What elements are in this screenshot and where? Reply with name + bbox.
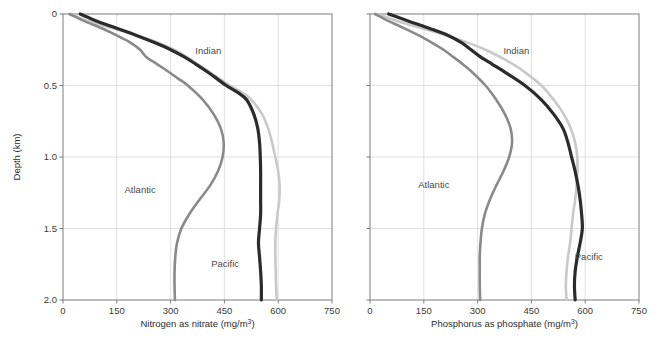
series-label-atlantic: Atlantic (125, 184, 156, 195)
series-label-indian: Indian (195, 45, 221, 56)
xaxis-title-main: Nitrogen as nitrate (mg/m (140, 318, 247, 329)
xtick-label: 150 (109, 305, 125, 316)
yaxis-title: Depth (km) (11, 134, 22, 181)
xtick-label: 300 (470, 305, 486, 316)
xtick-label: 600 (577, 305, 593, 316)
xtick-label: 300 (163, 305, 179, 316)
xtick-label: 600 (270, 305, 286, 316)
xaxis-title: Phosphorus as phosphate (mg/m3) (431, 318, 578, 329)
series-label-atlantic: Atlantic (418, 179, 449, 190)
chart-canvas: 015030045060075000.51.01.52.0Nitrogen as… (0, 0, 666, 348)
series-label-pacific: Pacific (211, 258, 239, 269)
ytick-label: 1.5 (44, 223, 57, 234)
ytick-label: 0 (52, 8, 57, 19)
xtick-label: 750 (324, 305, 340, 316)
xtick-label: 750 (631, 305, 647, 316)
xtick-label: 0 (367, 305, 372, 316)
xtick-label: 450 (523, 305, 539, 316)
xtick-label: 0 (60, 305, 65, 316)
ytick-label: 0.5 (44, 80, 57, 91)
xaxis-title-tail: ) (575, 318, 578, 329)
xaxis-title-tail: ) (251, 318, 254, 329)
ocean-nutrient-profile-figure: 015030045060075000.51.01.52.0Nitrogen as… (0, 0, 666, 348)
ytick-label: 1.0 (44, 151, 57, 162)
panel-phosphate: 0150300450600750Phosphorus as phosphate … (367, 14, 647, 329)
series-label-pacific: Pacific (575, 251, 603, 262)
xaxis-title: Nitrogen as nitrate (mg/m3) (140, 318, 254, 329)
panel-nitrate: 015030045060075000.51.01.52.0Nitrogen as… (11, 8, 340, 329)
ytick-label: 2.0 (44, 294, 57, 305)
series-label-indian: Indian (503, 45, 529, 56)
xtick-label: 150 (416, 305, 432, 316)
xaxis-title-main: Phosphorus as phosphate (mg/m (431, 318, 571, 329)
xtick-label: 450 (216, 305, 232, 316)
